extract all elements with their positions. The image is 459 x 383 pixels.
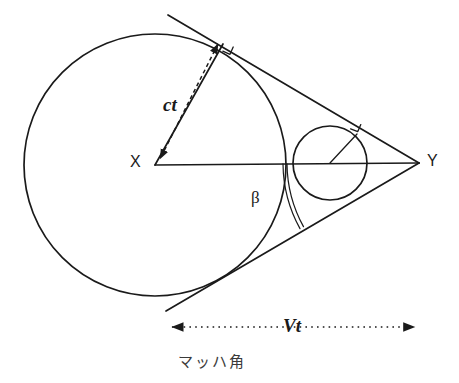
lower-tangent-line xyxy=(166,163,419,311)
label-ct: ct xyxy=(163,95,177,114)
small-circle-radius-line xyxy=(330,134,357,163)
label-point-x: X xyxy=(130,154,141,170)
figure-root: X Y ct Vt β マッハ角 xyxy=(0,0,459,383)
label-point-y: Y xyxy=(427,153,438,169)
mach-angle-diagram xyxy=(0,0,459,383)
label-mach-angle-beta: β xyxy=(251,189,260,206)
upper-tangent-line xyxy=(168,15,419,163)
figure-caption: マッハ角 xyxy=(178,355,246,370)
label-vt: Vt xyxy=(283,316,301,335)
